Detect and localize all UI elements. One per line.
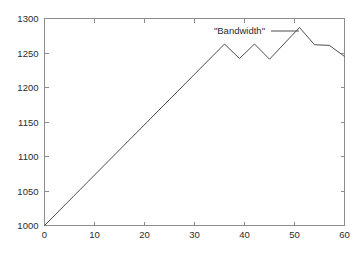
x-tick-label: 10 bbox=[89, 229, 100, 240]
line-chart: 1000105011001150120012501300 01020304050… bbox=[0, 0, 362, 255]
chart-background bbox=[0, 0, 362, 255]
x-tick-label: 50 bbox=[289, 229, 300, 240]
x-tick-label: 60 bbox=[339, 229, 350, 240]
y-tick-label: 1050 bbox=[17, 186, 38, 197]
y-tick-label: 1100 bbox=[18, 151, 38, 162]
legend-label: "Bandwidth" bbox=[214, 25, 265, 36]
y-tick-label: 1300 bbox=[17, 13, 38, 24]
y-tick-label: 1200 bbox=[17, 82, 38, 93]
y-tick-label: 1000 bbox=[17, 220, 38, 231]
chart-container: 1000105011001150120012501300 01020304050… bbox=[0, 0, 362, 255]
x-tick-label: 20 bbox=[139, 229, 150, 240]
y-tick-label: 1150 bbox=[18, 117, 38, 128]
y-tick-label: 1250 bbox=[17, 48, 38, 59]
x-tick-label: 40 bbox=[239, 229, 250, 240]
x-tick-label: 30 bbox=[189, 229, 200, 240]
x-tick-label: 0 bbox=[42, 229, 47, 240]
